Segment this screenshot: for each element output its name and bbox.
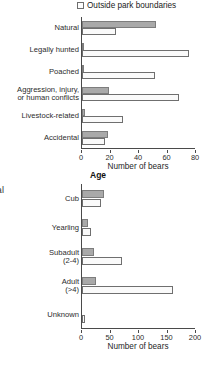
age-bar	[82, 286, 173, 294]
cause-bar	[82, 87, 109, 94]
cause-x-tick-label: 80	[191, 153, 199, 162]
cause-bar	[82, 43, 84, 50]
cause-x-tick-label: 40	[134, 153, 142, 162]
age-bar	[82, 219, 88, 227]
age-category-label: Unknown	[47, 310, 79, 318]
age-x-tick-label: 150	[160, 333, 172, 342]
cause-bar	[82, 50, 189, 57]
age-category-row: Yearling	[82, 213, 195, 242]
cause-bar	[82, 72, 155, 79]
age-bar	[82, 228, 91, 236]
age-x-tick-label: 100	[132, 333, 144, 342]
cause-bar	[82, 138, 105, 145]
chart-panel-cause: NaturalLegally huntedPoachedAggression, …	[0, 0, 213, 175]
age-bar	[82, 257, 122, 265]
age-x-axis-title: Number of bears	[108, 342, 169, 351]
cause-category-row: Aggression, injury,or human conflicts	[82, 83, 195, 105]
age-category-label: Adult(>4)	[62, 277, 79, 293]
age-plot-area: CubYearlingSubadult(2-4)Adult(>4)Unknown	[81, 184, 195, 329]
age-category-row: Unknown	[82, 300, 195, 329]
age-category-row: Adult(>4)	[82, 271, 195, 300]
age-x-tick-label: 0	[79, 333, 83, 342]
age-bar	[82, 190, 104, 198]
cause-plot-area: NaturalLegally huntedPoachedAggression, …	[81, 17, 195, 149]
cause-bar	[82, 116, 123, 123]
cause-category-row: Accidental	[82, 127, 195, 149]
age-category-label: Cub	[65, 194, 79, 202]
cause-category-row: Poached	[82, 61, 195, 83]
age-category-row: Cub	[82, 184, 195, 213]
cause-bar	[82, 109, 85, 116]
cause-category-label: Natural	[55, 24, 79, 32]
age-x-tick-label: 200	[189, 333, 201, 342]
age-category-row: Subadult(2-4)	[82, 242, 195, 271]
age-title: Age	[90, 170, 106, 180]
cause-category-label: Accidental	[44, 134, 79, 142]
age-bar	[82, 315, 85, 323]
cause-x-tick-label: 0	[79, 153, 83, 162]
age-bar	[82, 248, 94, 256]
cause-bar	[82, 21, 156, 28]
cause-category-label: Aggression, injury,or human conflicts	[17, 86, 79, 102]
cause-category-row: Legally hunted	[82, 39, 195, 61]
cause-category-row: Livestock-related	[82, 105, 195, 127]
cause-category-label: Livestock-related	[22, 112, 79, 120]
cause-x-tick-label: 20	[105, 153, 113, 162]
cause-category-label: Legally hunted	[30, 46, 79, 54]
age-category-label: Yearling	[52, 223, 79, 231]
cause-category-label: Poached	[49, 68, 79, 76]
age-bar	[82, 277, 96, 285]
cause-bar	[82, 94, 179, 101]
cause-bar	[82, 28, 116, 35]
age-bar	[82, 199, 101, 207]
age-x-tick-label: 50	[105, 333, 113, 342]
age-category-label: Subadult(2-4)	[49, 248, 79, 264]
cause-bar	[82, 65, 84, 72]
cause-category-row: Natural	[82, 17, 195, 39]
cause-bar	[82, 131, 108, 138]
bear-mortality-figure: tal Outside park boundaries NaturalLegal…	[0, 0, 213, 374]
cause-x-tick-label: 60	[162, 153, 170, 162]
chart-panel-age: AgeCubYearlingSubadult(2-4)Adult(>4)Unkn…	[0, 168, 213, 374]
